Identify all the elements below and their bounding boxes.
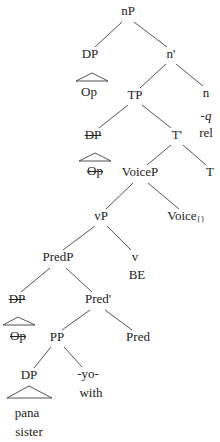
edge-predbar-pred — [105, 310, 132, 330]
tree-node-v: v — [132, 250, 139, 263]
edge-np-dp — [95, 22, 122, 47]
tree-node-op-subj: Op — [87, 164, 103, 177]
edge-nbar-n — [176, 64, 203, 86]
tree-node-v-gloss: BE — [129, 268, 146, 281]
edge-voicep-voice — [148, 183, 179, 209]
edge-np-nbar — [134, 22, 167, 47]
tree-node-dp-rel: DP — [82, 47, 99, 60]
tree-node-dp-compl: DP — [21, 368, 38, 381]
voice-label: Voice — [167, 208, 196, 223]
tree-node-np: nP — [121, 4, 135, 17]
tree-node-n-bar: n' — [167, 47, 176, 60]
roof-triangle-pana — [7, 386, 52, 398]
edge-vp-predp — [63, 226, 95, 250]
voice-subscript: {} — [197, 214, 205, 224]
roof-triangle-op-pred — [3, 317, 35, 325]
edge-pp-dp — [34, 347, 51, 368]
edge-tp-tbar — [142, 105, 171, 128]
tree-node-vp: vP — [94, 209, 108, 222]
tree-node-dp-pred: DP — [9, 292, 26, 305]
tree-node-op-rel: Op — [81, 85, 97, 98]
tree-node-p-gloss: with — [79, 386, 102, 399]
tree-node-n-affix: -q — [201, 109, 212, 122]
edge-voicep-vp — [106, 183, 133, 209]
tree-node-dp-subj: DP — [85, 128, 102, 141]
tree-node-sister: sister — [15, 425, 42, 438]
tree-node-pana: pana — [15, 406, 40, 419]
edge-tbar-t — [183, 145, 206, 165]
edge-predp-dp — [21, 268, 50, 292]
tree-node-n: n — [203, 86, 210, 99]
edge-pp-phead — [64, 347, 82, 367]
tree-node-op-pred: Op — [10, 329, 26, 342]
tree-node-tp: TP — [127, 88, 142, 101]
edge-nbar-tp — [140, 64, 166, 88]
tree-node-n-gloss: rel — [199, 126, 213, 139]
tree-node-pp: PP — [50, 330, 64, 343]
tree-node-t-bar: T' — [172, 128, 182, 141]
edge-tbar-voicep — [147, 145, 171, 165]
tree-node-pred: Pred — [126, 330, 150, 343]
edge-predp-predbar — [66, 268, 92, 292]
tree-node-t: T — [206, 165, 214, 178]
edge-tp-dp — [99, 105, 128, 128]
tree-node-voice-head: Voice{} — [167, 209, 205, 224]
tree-node-p-head: -yo- — [77, 367, 99, 380]
edge-vp-v — [107, 226, 131, 250]
syntax-tree-canvas: nP DP n' Op TP n -q rel DP T' Op VoiceP … — [0, 0, 220, 442]
roof-triangle-op-rel — [76, 73, 108, 81]
tree-node-pred-bar: Pred' — [85, 292, 111, 305]
tree-node-voicep: VoiceP — [122, 165, 159, 178]
roof-triangle-op-subj — [79, 153, 111, 161]
tree-node-predp: PredP — [42, 250, 73, 263]
edge-predbar-pp — [62, 310, 90, 330]
